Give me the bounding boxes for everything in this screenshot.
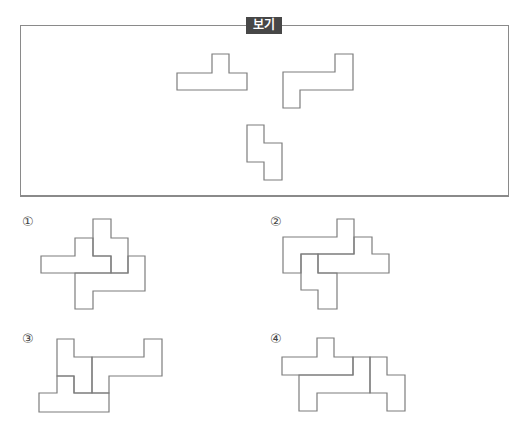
- option-3-figure[interactable]: [39, 339, 162, 412]
- given-piece-z: [283, 54, 353, 108]
- option-4-figure[interactable]: [282, 338, 405, 411]
- option-1-figure[interactable]: [41, 219, 145, 309]
- given-piece-t: [177, 54, 247, 90]
- figures: [0, 0, 524, 433]
- given-piece-s: [247, 125, 282, 180]
- option-2-figure[interactable]: [283, 219, 389, 309]
